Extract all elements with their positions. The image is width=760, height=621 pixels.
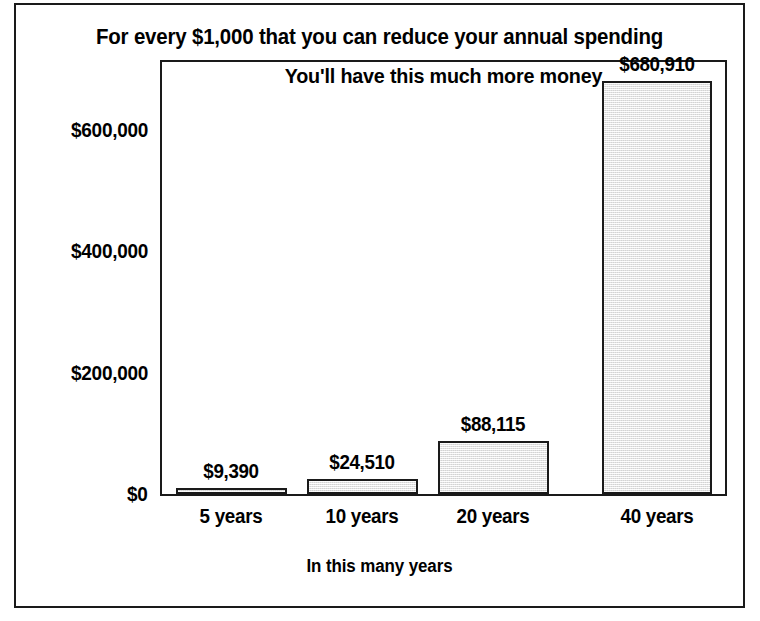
bar xyxy=(307,479,418,494)
x-axis-title: In this many years xyxy=(36,556,723,577)
y-axis-tick-label: $0 xyxy=(127,483,148,506)
y-axis-tick-label: $400,000 xyxy=(71,240,148,263)
bar-value-label: $24,510 xyxy=(259,451,466,474)
y-axis: $600,000$400,000$200,000$0 xyxy=(0,0,148,621)
x-axis-tick-label: 20 years xyxy=(408,505,577,528)
bar-value-label: $680,910 xyxy=(554,53,760,76)
y-axis-tick-label: $600,000 xyxy=(71,119,148,142)
plot-area: $9,390$24,510$88,115$680,910 xyxy=(160,60,727,496)
bar xyxy=(438,441,549,494)
bar-value-label: $88,115 xyxy=(390,413,597,436)
x-axis-tick-label: 40 years xyxy=(572,505,741,528)
chart-figure: For every $1,000 that you can reduce you… xyxy=(0,0,760,621)
bar xyxy=(176,488,287,494)
bar xyxy=(602,81,712,494)
y-axis-tick-label: $200,000 xyxy=(71,361,148,384)
